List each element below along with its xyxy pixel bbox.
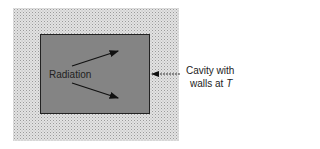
radiation-arrow-up bbox=[72, 51, 118, 66]
temperature-symbol: T bbox=[226, 78, 232, 89]
radiation-arrow-down bbox=[72, 83, 118, 98]
callout-line2: walls at T bbox=[190, 78, 232, 89]
callout-text: walls at bbox=[190, 78, 226, 89]
callout-line1: Cavity with bbox=[186, 65, 234, 76]
